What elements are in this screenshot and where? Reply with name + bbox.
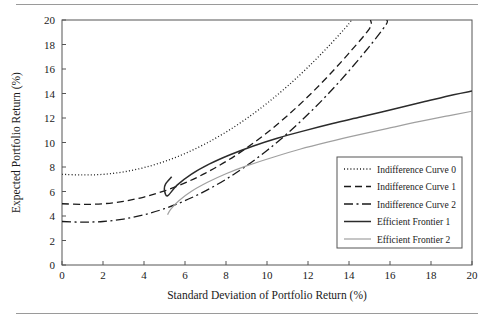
y-tick-label: 4 — [50, 210, 56, 222]
x-axis-title: Standard Deviation of Portfolio Return (… — [167, 289, 367, 302]
legend-label-2[interactable]: Indifference Curve 2 — [377, 200, 456, 210]
y-tick-label: 2 — [50, 235, 56, 247]
series-line-1 — [62, 20, 371, 204]
x-tick-label: 8 — [223, 269, 229, 281]
x-tick-label: 4 — [141, 269, 147, 281]
y-axis-title: Expected Portfolio Return (%) — [10, 72, 23, 213]
bottom-divider-rule — [16, 313, 478, 314]
legend-label-4[interactable]: Efficient Frontier 2 — [377, 235, 450, 245]
legend-label-3[interactable]: Efficient Frontier 1 — [377, 217, 450, 227]
figure-container: 0246810121416182002468101214161820Standa… — [0, 0, 494, 319]
y-tick-label: 6 — [50, 186, 56, 198]
y-tick-label: 12 — [44, 112, 55, 124]
x-tick-label: 10 — [262, 269, 274, 281]
x-tick-label: 20 — [467, 269, 479, 281]
y-tick-label: 18 — [44, 39, 56, 51]
x-tick-label: 12 — [303, 269, 314, 281]
x-tick-label: 14 — [344, 269, 356, 281]
x-tick-label: 16 — [385, 269, 397, 281]
x-tick-label: 0 — [59, 269, 65, 281]
portfolio-efficient-frontier-chart: 0246810121416182002468101214161820Standa… — [0, 0, 494, 319]
y-tick-label: 16 — [44, 63, 56, 75]
y-tick-label: 0 — [50, 259, 56, 271]
y-tick-label: 8 — [50, 161, 56, 173]
x-tick-label: 18 — [426, 269, 438, 281]
x-tick-label: 2 — [100, 269, 106, 281]
x-tick-label: 6 — [182, 269, 188, 281]
y-tick-label: 20 — [44, 14, 56, 26]
y-tick-label: 10 — [44, 137, 56, 149]
chart-legend[interactable]: Indifference Curve 0Indifference Curve 1… — [337, 157, 462, 248]
legend-label-0[interactable]: Indifference Curve 0 — [377, 165, 456, 175]
top-divider-rule — [16, 4, 478, 5]
y-tick-label: 14 — [44, 88, 56, 100]
legend-label-1[interactable]: Indifference Curve 1 — [377, 182, 456, 192]
